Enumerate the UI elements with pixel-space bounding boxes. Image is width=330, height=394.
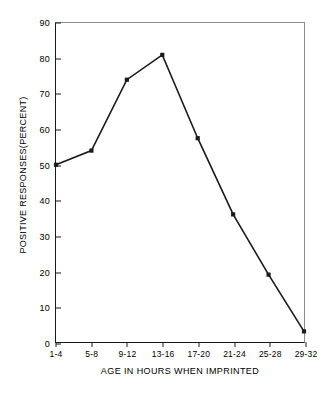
y-axis-title-text: POSITIVE RESPONSES(PERCENT) xyxy=(18,96,28,253)
x-tick-mark xyxy=(270,342,271,347)
y-tick-mark xyxy=(56,344,61,345)
x-tick-label: 5-8 xyxy=(85,349,98,359)
data-line xyxy=(56,55,304,331)
y-tick-label: 40 xyxy=(40,196,56,206)
x-tick-label: 17-20 xyxy=(187,349,210,359)
x-tick-mark xyxy=(163,342,164,347)
y-tick-label: 90 xyxy=(40,18,56,28)
x-tick-label: 13-16 xyxy=(152,349,175,359)
x-tick-mark xyxy=(91,342,92,347)
x-tick-mark xyxy=(234,342,235,347)
data-point-marker xyxy=(125,78,129,82)
data-point-marker xyxy=(302,329,306,333)
y-tick-label: 0 xyxy=(45,339,56,349)
data-point-marker xyxy=(89,149,93,153)
data-point-marker xyxy=(266,273,270,277)
y-tick-label: 80 xyxy=(40,54,56,64)
x-tick-label: 9-12 xyxy=(119,349,137,359)
x-tick-label: 29-32 xyxy=(295,349,318,359)
x-tick-label: 25-28 xyxy=(259,349,282,359)
imprinting-response-chart: POSITIVE RESPONSES(PERCENT) 010203040506… xyxy=(0,0,330,394)
y-tick-label: 10 xyxy=(40,303,56,313)
data-point-marker xyxy=(160,53,164,57)
plot-area: 0102030405060708090 1-45-89-1213-1617-20… xyxy=(55,22,305,343)
x-tick-mark xyxy=(56,342,57,347)
x-axis-title: AGE IN HOURS WHEN IMPRINTED xyxy=(55,366,305,376)
data-point-marker xyxy=(196,136,200,140)
data-point-marker xyxy=(231,212,235,216)
y-tick-label: 70 xyxy=(40,89,56,99)
data-point-marker xyxy=(54,163,58,167)
y-tick-label: 20 xyxy=(40,268,56,278)
x-tick-label: 21-24 xyxy=(223,349,246,359)
x-tick-mark xyxy=(198,342,199,347)
y-tick-label: 60 xyxy=(40,125,56,135)
x-tick-label: 1-4 xyxy=(50,349,63,359)
y-tick-label: 50 xyxy=(40,161,56,171)
y-tick-label: 30 xyxy=(40,232,56,242)
x-tick-mark xyxy=(306,342,307,347)
x-tick-mark xyxy=(127,342,128,347)
data-series-layer xyxy=(56,23,304,342)
